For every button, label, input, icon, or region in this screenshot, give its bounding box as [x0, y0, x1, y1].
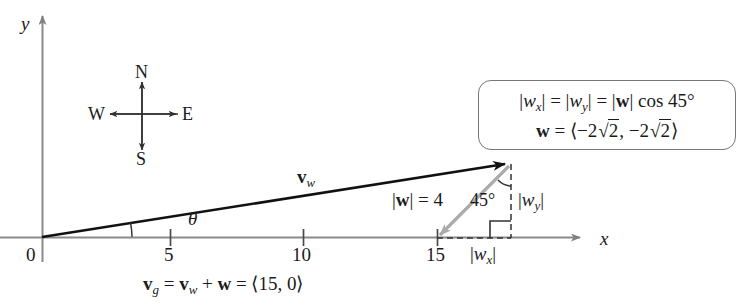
abs-bar-close: |	[540, 189, 544, 210]
caption-vw-subscript: w	[189, 282, 198, 297]
equals-sign: =	[550, 90, 561, 111]
callout-line-2: w = ⟨−2√2, −2√2⟩	[479, 119, 735, 142]
origin-label: 0	[26, 245, 36, 264]
angle-45-label: 45°	[470, 191, 495, 209]
caption-w: w	[218, 273, 232, 294]
w-symbol: w	[616, 90, 630, 111]
diagram-graphics	[0, 0, 740, 307]
angle-theta-arc	[131, 222, 133, 236]
compass-rose-icon	[110, 82, 178, 150]
angle-45-arc	[498, 180, 511, 186]
w-symbol: w	[536, 120, 550, 141]
compass-label-east: E	[182, 105, 193, 123]
vector-vw-label: vw	[297, 167, 315, 190]
abs-bar-close: |	[542, 90, 546, 111]
compass-label-north: N	[135, 63, 148, 81]
callout-line-1: |wx| = |wy| = |w| cos 45°	[479, 90, 735, 115]
compass-label-south: S	[136, 150, 146, 168]
caption-vg-subscript: g	[153, 282, 159, 297]
wy-component-label: |wy|	[518, 190, 544, 213]
w-symbol: w	[569, 90, 582, 111]
formula-callout-box: |wx| = |wy| = |w| cos 45° w = ⟨−2√2, −2√…	[478, 80, 736, 150]
abs-bar-close: |	[492, 243, 496, 264]
wy-value: −2√2	[629, 120, 671, 141]
x-tick-label-15: 15	[426, 245, 445, 264]
wx-value: −2√2	[577, 120, 619, 141]
right-angle-marker	[490, 221, 511, 238]
caption-plus: +	[202, 273, 213, 294]
caption-equals-1: =	[164, 273, 175, 294]
y-axis-label: y	[21, 14, 29, 33]
angle-bracket-close: ⟩	[671, 120, 678, 141]
w-symbol: w	[474, 243, 487, 264]
angle-45-value: 45°	[668, 90, 695, 111]
w-magnitude-label: |w| = 4	[392, 190, 443, 209]
cos-function: cos	[638, 90, 663, 111]
abs-bar-close: |	[588, 90, 592, 111]
w-symbol: w	[523, 90, 536, 111]
vector-vw-label-base: v	[297, 166, 307, 187]
wx-component-label: |wx|	[470, 244, 496, 267]
equals-sign: =	[555, 120, 566, 141]
abs-bar-close: |	[410, 189, 414, 210]
w-symbol: w	[396, 189, 410, 210]
equals-sign: =	[596, 90, 607, 111]
caption-equals-2: =	[236, 273, 247, 294]
abs-bar-close: |	[629, 90, 633, 111]
w-symbol: w	[522, 189, 535, 210]
compass-label-west: W	[88, 105, 105, 123]
x-tick-label-10: 10	[292, 245, 311, 264]
figure-caption: vg = vw + w = ⟨15, 0⟩	[143, 274, 303, 297]
angle-bracket-open: ⟨	[570, 120, 577, 141]
vector-diagram-figure: y x 0 5 10 15 N S E W vw θ |w| = 4 45° |…	[0, 0, 740, 307]
comma: ,	[619, 120, 624, 141]
vector-vw-label-subscript: w	[307, 175, 316, 190]
angle-theta-label: θ	[188, 209, 197, 228]
w-magnitude-value: 4	[434, 189, 444, 210]
x-axis-label: x	[600, 229, 608, 248]
caption-vw-base: v	[179, 273, 189, 294]
x-tick-label-5: 5	[164, 245, 174, 264]
caption-vg-base: v	[143, 273, 153, 294]
equals-sign: =	[418, 189, 429, 210]
caption-result: ⟨15, 0⟩	[251, 273, 303, 294]
